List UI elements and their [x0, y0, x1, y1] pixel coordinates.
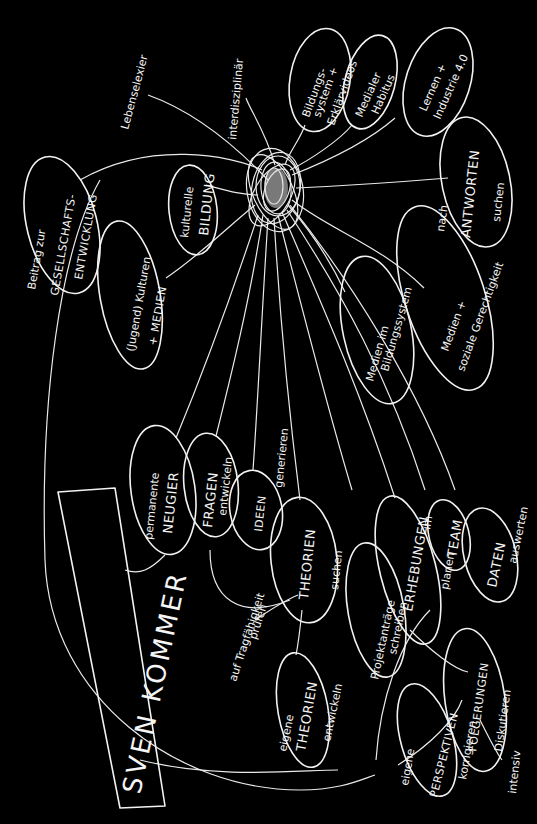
daten-label: DATEN	[484, 540, 508, 588]
line-erhebungen-folgerungen	[410, 630, 468, 672]
line-lernen	[292, 118, 395, 175]
kulturelle-line1: kulturelle	[178, 186, 196, 239]
eigene-theorien-label: THEORIEN	[293, 680, 320, 753]
ideen-sub: generieren	[272, 427, 291, 488]
perspektiven-pre: eigene	[398, 747, 417, 786]
antworten-label: ANTWORTEN	[458, 149, 482, 238]
line-antworten	[296, 178, 448, 188]
antworten-suffix: suchen	[490, 182, 507, 223]
neugier-oval	[122, 421, 203, 559]
theorien-label: THEORIEN	[296, 528, 318, 601]
line-fragen-theorien	[210, 550, 290, 608]
ideen-label: IDEEN	[252, 495, 269, 533]
lebenselexier-label: Lebenselexier	[118, 53, 150, 131]
line-neugier-name	[125, 555, 165, 572]
intensiv-label: intensiv	[506, 749, 524, 794]
kulturelle-line2: BILDUNG	[196, 172, 217, 236]
line-ideen	[253, 218, 268, 470]
line-team	[287, 210, 425, 490]
mind-map-svg: SVEN KOMMER Beitrag zur GESELLSCHAFTS- E…	[0, 0, 537, 824]
mind-map-canvas: SVEN KOMMER Beitrag zur GESELLSCHAFTS- E…	[0, 0, 537, 824]
neugier-line1: permanente	[142, 472, 162, 541]
line-neugier	[176, 215, 258, 438]
line-theorien-eigene	[296, 610, 302, 655]
jugend-line2: + MEDIEN	[146, 285, 169, 346]
theorien-sub: suchen	[328, 550, 345, 591]
folgerungen-sub: Diskutieren	[492, 689, 514, 753]
neugier-line2: NEUGIER	[160, 471, 181, 534]
interdisziplinaer-label: interdisziplinär	[226, 58, 246, 141]
line-fragen	[216, 215, 263, 436]
antworten-prefix: nach	[434, 204, 451, 232]
team-pre: im	[420, 515, 435, 531]
line-medien-sozial	[292, 200, 424, 288]
line-beitrag	[80, 154, 262, 180]
node-shapes	[11, 19, 527, 808]
